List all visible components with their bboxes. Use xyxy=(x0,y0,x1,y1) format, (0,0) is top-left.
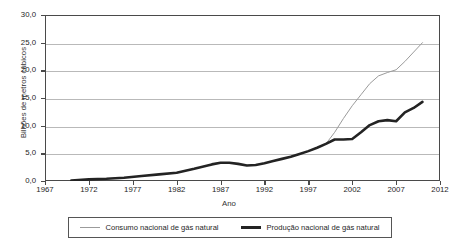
x-tick-label-2012: 2012 xyxy=(420,186,458,194)
x-tick-label-2007: 2007 xyxy=(376,186,416,194)
legend-line-icon-consumo xyxy=(80,227,100,228)
legend-label-producao: Produção nacional de gás natural xyxy=(266,223,379,232)
legend-entry-producao[interactable]: Produção nacional de gás natural xyxy=(241,223,379,232)
legend-label-consumo: Consumo nacional de gás natural xyxy=(105,223,218,232)
y-tick-label-0: 0,0 xyxy=(2,177,36,185)
chart-legend: Consumo nacional de gás natural Produção… xyxy=(68,217,392,238)
x-tick-label-1967: 1967 xyxy=(25,186,65,194)
y-tick-label-5: 5,0 xyxy=(2,149,36,157)
x-tick-label-1972: 1972 xyxy=(69,186,109,194)
series-layer xyxy=(45,15,440,181)
x-tick-label-1987: 1987 xyxy=(201,186,241,194)
x-tick-label-1977: 1977 xyxy=(113,186,153,194)
y-tick-label-15: 15,0 xyxy=(2,94,36,102)
x-tick-label-1992: 1992 xyxy=(244,186,284,194)
x-tick-label-1982: 1982 xyxy=(157,186,197,194)
y-tick-label-30: 30,0 xyxy=(2,11,36,19)
legend-entry-consumo[interactable]: Consumo nacional de gás natural xyxy=(80,223,218,232)
y-tick-label-25: 25,0 xyxy=(2,39,36,47)
legend-line-icon-producao xyxy=(241,226,261,228)
x-tick-label-1997: 1997 xyxy=(288,186,328,194)
x-axis-title: Ano xyxy=(0,199,458,208)
y-tick-label-10: 10,0 xyxy=(2,122,36,130)
x-tick-label-2002: 2002 xyxy=(332,186,372,194)
series-line-producao xyxy=(71,102,422,181)
series-line-consumo xyxy=(71,43,422,181)
y-tick-label-20: 20,0 xyxy=(2,66,36,74)
chart-figure: Bilhões de metros cúbicos 30,0 25,0 20,0… xyxy=(0,0,458,245)
